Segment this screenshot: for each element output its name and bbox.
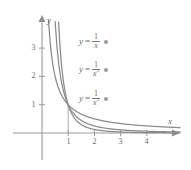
equation-2-exponent: 2 — [97, 68, 100, 73]
x-tick-label-4: 4 — [142, 138, 151, 146]
equation-label-1-over-x: y = 1 x — [79, 33, 108, 50]
equation-1-lhs: y — [79, 37, 83, 46]
equation-label-1-over-x-squared: y = 1 x2 — [79, 61, 108, 78]
equation-2-lhs: y — [79, 65, 83, 74]
dot-marker-icon — [104, 97, 108, 101]
equation-1-denominator: x — [93, 42, 99, 50]
equation-1-relation: = — [85, 37, 90, 46]
y-tick-label-1: 1 — [29, 101, 38, 109]
x-axis-label: x — [168, 117, 172, 126]
equation-2-denominator: x2 — [92, 70, 100, 78]
equation-1-numerator: 1 — [93, 33, 99, 41]
y-tick-label-2: 2 — [29, 72, 38, 80]
curve-1-over-x-squared — [55, 22, 180, 132]
equation-2-fraction: 1 x2 — [92, 61, 100, 78]
y-tick-label-3: 3 — [29, 44, 38, 52]
figure-container: y x 1 2 3 4 1 2 3 y = 1 x y = 1 x2 y = 1 — [0, 0, 191, 170]
x-tick-label-2: 2 — [90, 138, 99, 146]
equation-3-lhs: y — [79, 94, 83, 103]
equation-3-relation: = — [85, 94, 90, 103]
x-tick-label-3: 3 — [116, 138, 125, 146]
y-axis-arrowhead — [39, 15, 46, 22]
equation-3-fraction: 1 x3 — [92, 90, 100, 107]
equation-label-1-over-x-cubed: y = 1 x3 — [79, 90, 108, 107]
equation-2-relation: = — [85, 65, 90, 74]
equation-3-denominator: x3 — [92, 99, 100, 107]
y-axis-label: y — [47, 16, 51, 25]
dot-marker-icon — [104, 40, 108, 44]
equation-1-fraction: 1 x — [92, 33, 100, 50]
dot-marker-icon — [104, 68, 108, 72]
equation-3-exponent: 3 — [97, 97, 100, 102]
x-tick-label-1: 1 — [64, 138, 73, 146]
